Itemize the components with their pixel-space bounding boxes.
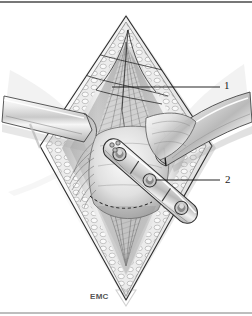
illustration-canvas [0, 0, 252, 316]
callout-number-2: 2 [225, 174, 231, 185]
artist-signature: EMC [90, 292, 109, 301]
surgical-illustration-figure: 1 2 EMC [0, 0, 252, 316]
callout-number-1: 1 [224, 80, 230, 91]
